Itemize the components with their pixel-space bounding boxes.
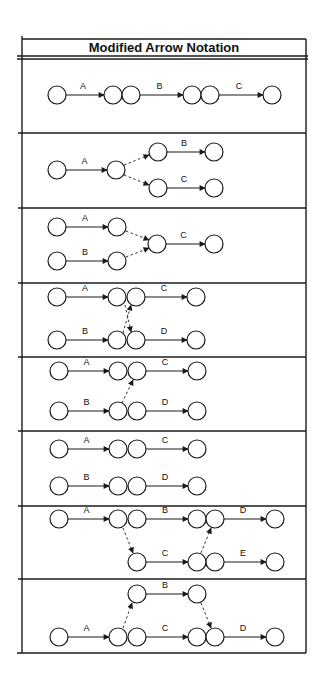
event-node [149, 143, 167, 161]
event-node [109, 628, 127, 646]
event-node [50, 402, 68, 420]
event-node [266, 553, 284, 571]
event-node [50, 510, 68, 528]
activity-label: B [82, 326, 88, 336]
event-node [183, 86, 201, 104]
event-node [206, 553, 224, 571]
event-node [108, 288, 126, 306]
activity-label: A [83, 623, 89, 633]
event-node [128, 628, 146, 646]
activity-label: A [80, 81, 86, 91]
event-node [128, 553, 146, 571]
event-node [48, 161, 66, 179]
section-staggered-dependency: ABDCE [50, 505, 284, 571]
event-node [187, 331, 205, 349]
event-node [48, 252, 66, 270]
section-cross-dependency: ACBD [48, 283, 205, 349]
activity-label: B [162, 580, 168, 590]
diagram-sections: ABCABCABCACBDACBDACBDABDCEBACD [48, 81, 284, 646]
event-node [148, 235, 166, 253]
section-single-cross-dependency: ACBD [50, 357, 206, 420]
event-node [48, 218, 66, 236]
event-node [109, 402, 127, 420]
section-merge-dependency: ABC [48, 213, 223, 270]
activity-label: A [82, 213, 88, 223]
event-node [109, 362, 127, 380]
event-node [188, 628, 206, 646]
activity-label: C [181, 174, 188, 184]
activity-label: B [162, 505, 168, 515]
dummy-arrow [201, 528, 211, 553]
event-node [205, 235, 223, 253]
activity-label: C [236, 81, 243, 91]
activity-label: A [83, 505, 89, 515]
event-node [50, 477, 68, 495]
event-node [188, 402, 206, 420]
event-node [127, 331, 145, 349]
event-node [128, 510, 146, 528]
dummy-arrow [125, 305, 131, 332]
event-node [263, 86, 281, 104]
activity-label: D [161, 326, 168, 336]
activity-label: A [82, 283, 88, 293]
dummy-arrow [124, 155, 149, 165]
event-node [188, 477, 206, 495]
section-burst-dependency: ABC [48, 138, 223, 197]
activity-label: C [162, 548, 169, 558]
event-node [128, 402, 146, 420]
event-node [128, 440, 146, 458]
event-node [188, 553, 206, 571]
event-node [266, 510, 284, 528]
dummy-arrow [126, 248, 149, 257]
section-sequential-activities: ABC [48, 81, 281, 104]
event-node [187, 288, 205, 306]
event-node [188, 510, 206, 528]
activity-label: D [162, 472, 169, 482]
event-node [108, 331, 126, 349]
activity-label: D [162, 397, 169, 407]
table-title: Modified Arrow Notation [89, 40, 240, 55]
event-node [109, 510, 127, 528]
event-node [50, 440, 68, 458]
event-node [104, 86, 122, 104]
event-node [266, 628, 284, 646]
event-node [188, 362, 206, 380]
activity-label: E [240, 548, 246, 558]
event-node [128, 362, 146, 380]
event-node [48, 331, 66, 349]
dummy-arrow [123, 603, 132, 628]
event-node [50, 628, 68, 646]
arrow-notation-diagram: Modified Arrow Notation ABCABCABCACBDACB… [0, 0, 325, 689]
activity-label: A [81, 156, 87, 166]
dummy-arrow [122, 380, 133, 403]
activity-label: C [180, 230, 187, 240]
activity-label: B [83, 397, 89, 407]
dummy-arrow [123, 305, 131, 333]
dummy-arrow [126, 231, 149, 240]
event-node [188, 585, 206, 603]
event-node [149, 179, 167, 197]
activity-label: B [156, 81, 162, 91]
dummy-arrow [201, 603, 211, 628]
event-node [108, 218, 126, 236]
event-node [205, 179, 223, 197]
event-node [107, 161, 125, 179]
event-node [108, 252, 126, 270]
activity-label: B [83, 472, 89, 482]
event-node [206, 510, 224, 528]
event-node [48, 86, 66, 104]
event-node [48, 288, 66, 306]
activity-label: A [83, 357, 89, 367]
event-node [50, 362, 68, 380]
event-node [127, 288, 145, 306]
event-node [122, 86, 140, 104]
dummy-arrow [123, 528, 133, 553]
activity-label: C [161, 283, 168, 293]
activity-label: A [83, 435, 89, 445]
section-independent-chains: ACBD [50, 435, 206, 495]
event-node [206, 628, 224, 646]
activity-label: C [162, 357, 169, 367]
activity-label: D [240, 623, 247, 633]
event-node [188, 440, 206, 458]
event-node [109, 477, 127, 495]
